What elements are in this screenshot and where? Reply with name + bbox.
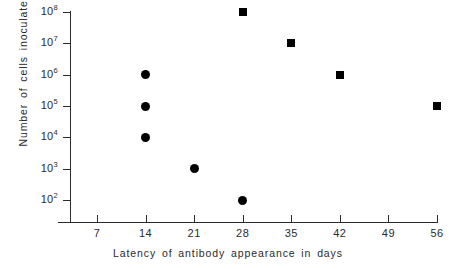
y-tick-mark [63,200,71,201]
data-point-square [239,8,247,16]
y-tick-mark [63,12,71,13]
x-tick-label: 28 [228,227,258,239]
y-tick-mark [63,137,71,138]
y-tick-mantissa: 10 [41,162,54,174]
y-tick-mantissa: 10 [41,5,54,17]
x-tick-mark [243,215,244,223]
x-tick-label: 21 [179,227,209,239]
y-tick-exponent: 7 [54,35,58,44]
y-tick-exponent: 8 [54,3,58,12]
data-point-circle [141,102,150,111]
scatter-plot-figure: 108107106105104103102 714212835424956 La… [0,0,456,269]
y-tick-mantissa: 10 [41,130,54,142]
y-tick-exponent: 4 [54,129,58,138]
x-axis-title: Latency of antibody appearance in days [0,247,456,259]
x-tick-label: 56 [422,227,452,239]
y-tick-mark [63,106,71,107]
y-tick-mark [63,169,71,170]
y-tick-mantissa: 10 [41,193,54,205]
x-tick-label: 49 [373,227,403,239]
data-point-square [433,102,441,110]
x-tick-label: 35 [276,227,306,239]
y-tick-mantissa: 10 [41,68,54,80]
data-point-circle [190,164,199,173]
x-tick-label: 14 [131,227,161,239]
x-tick-label: 42 [325,227,355,239]
y-tick-label: 102 [14,193,58,205]
y-tick-exponent: 5 [54,97,58,106]
y-tick-mantissa: 10 [41,99,54,111]
data-point-circle [141,133,150,142]
x-tick-label: 7 [82,227,112,239]
x-tick-mark [194,215,195,223]
x-tick-mark [388,215,389,223]
x-tick-mark [437,215,438,223]
x-tick-mark [146,215,147,223]
x-tick-mark [97,215,98,223]
y-tick-mark [63,75,71,76]
y-tick-exponent: 2 [54,191,58,200]
data-point-square [336,71,344,79]
data-point-circle [141,70,150,79]
y-tick-exponent: 6 [54,66,58,75]
x-axis-line [58,222,438,223]
y-tick-mantissa: 10 [41,36,54,48]
data-point-circle [238,196,247,205]
x-tick-mark [340,215,341,223]
y-axis-title: Number of cells inoculated [17,0,29,155]
data-point-square [287,39,295,47]
y-tick-label: 103 [14,162,58,174]
y-tick-mark [63,43,71,44]
y-tick-exponent: 3 [54,160,58,169]
x-tick-mark [291,215,292,223]
